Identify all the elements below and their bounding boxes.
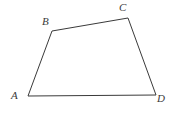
vertex-label-c: C — [119, 2, 126, 13]
figure-background — [0, 0, 175, 113]
geometry-figure-canvas: A B C D — [0, 0, 175, 113]
vertex-label-a: A — [11, 90, 18, 101]
quadrilateral-abcd-drawing — [0, 0, 175, 113]
vertex-label-d: D — [157, 93, 165, 104]
vertex-label-b: B — [42, 16, 49, 27]
